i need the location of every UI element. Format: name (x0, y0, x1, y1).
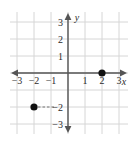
x-tick-label: 3 (117, 75, 122, 86)
x-tick-label: −1 (46, 75, 57, 86)
y-axis-label: y (74, 12, 80, 23)
y-axis-arrow-up (65, 13, 72, 20)
x-axis-label: x (121, 76, 127, 87)
axis-lines (11, 13, 127, 133)
y-tick-label: 2 (58, 34, 63, 45)
x-tick-label: 1 (83, 75, 88, 86)
x-tick-label: 2 (100, 75, 105, 86)
y-tick-label: 3 (58, 17, 63, 28)
y-tick-label: 1 (58, 51, 63, 62)
y-tick-label: −2 (52, 102, 63, 113)
x-tick-label: −2 (29, 75, 40, 86)
coordinate-plane-svg: −3−2−1123321−2−3 x y (0, 0, 135, 142)
y-axis-arrow-down (65, 126, 72, 133)
point-2-0 (98, 69, 105, 76)
y-tick-label: −3 (52, 119, 63, 130)
point-neg2-neg2 (30, 103, 37, 110)
coordinate-plane-figure: −3−2−1123321−2−3 x y (0, 0, 135, 142)
x-tick-label: −3 (12, 75, 23, 86)
